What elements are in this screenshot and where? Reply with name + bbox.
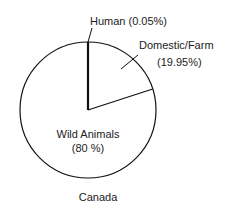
- leader-human: [88, 28, 92, 42]
- chart-caption: Canada: [50, 191, 146, 204]
- label-wild-value: (80 %): [40, 142, 136, 155]
- pie-chart: [0, 0, 236, 210]
- label-wild-name: Wild Animals: [40, 128, 136, 141]
- label-human: Human (0.05%): [90, 15, 167, 28]
- label-domestic-name: Domestic/Farm: [139, 39, 214, 52]
- label-domestic-value: (19.95%): [157, 56, 202, 69]
